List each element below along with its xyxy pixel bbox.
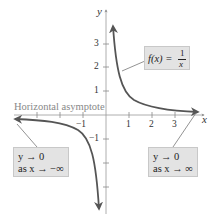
x-axis-label: x [202, 113, 207, 125]
right-limit-line1: y → 0 [153, 151, 179, 163]
left-limit-callout: y → 0 as x → −∞ [13, 147, 69, 177]
tick-label-y-3: 3 [94, 38, 99, 48]
tick-label-y-2: 2 [94, 61, 99, 71]
function-lhs: f(x) = [148, 53, 172, 65]
horizontal-asymptote-label: Horizontal asymptote [14, 101, 105, 112]
tick-label-y-neg1: −1 [89, 133, 99, 143]
tick-label-x-neg1: −1 [76, 119, 86, 129]
leader-left [17, 124, 37, 147]
function-callout: f(x) = 1 x [144, 46, 190, 70]
function-denominator: x [179, 58, 183, 70]
left-limit-line1: y → 0 [18, 151, 44, 163]
left-limit-line2: as x → −∞ [18, 163, 64, 175]
tick-label-x-3: 3 [172, 119, 177, 129]
tick-label-y-1: 1 [94, 85, 99, 95]
right-limit-line2: as x → ∞ [153, 163, 193, 175]
tick-label-x-1: 1 [126, 119, 131, 129]
right-limit-callout: y → 0 as x → ∞ [148, 147, 198, 177]
tick-label-x-2: 2 [149, 119, 154, 129]
leader-function [122, 61, 145, 71]
y-axis-label: y [97, 5, 102, 17]
